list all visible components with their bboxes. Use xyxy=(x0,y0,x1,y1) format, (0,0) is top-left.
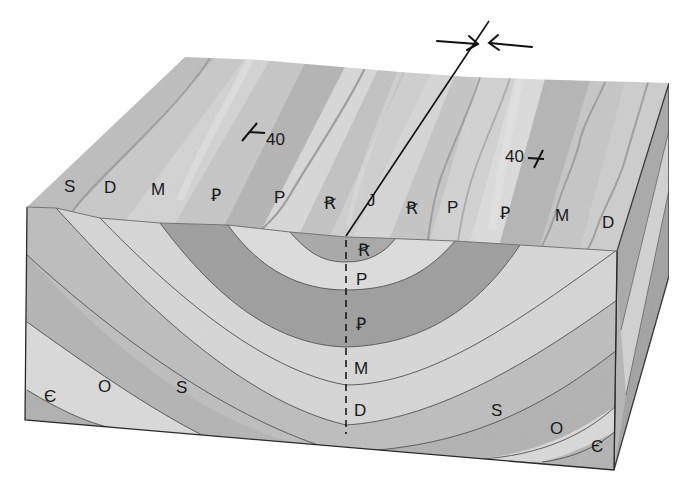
dip-value-left: 40 xyxy=(266,130,285,149)
surface-label: P xyxy=(274,188,285,207)
compression-arrows-icon xyxy=(437,35,532,50)
section-label: Ꞧ xyxy=(358,241,370,260)
section-label: M xyxy=(354,359,368,378)
surface-label: Ꝑ xyxy=(500,204,510,223)
section-label: O xyxy=(98,377,111,396)
section-label: S xyxy=(491,401,502,420)
surface-label: Ꞧ xyxy=(324,194,336,213)
section-label: O xyxy=(550,419,563,438)
surface-label: M xyxy=(555,206,569,225)
surface-label: Ꞧ xyxy=(406,199,418,218)
surface-label: Ꝑ xyxy=(211,186,221,205)
section-label: Є xyxy=(591,437,603,456)
surface-label: D xyxy=(602,213,614,232)
surface-label: M xyxy=(151,180,165,199)
section-label: D xyxy=(354,401,366,420)
section-label: Ꝑ xyxy=(356,315,366,334)
surface-label: P xyxy=(447,198,458,217)
syncline-block-diagram: 40 40 S D M Ꝑ P Ꞧ J Ꞧ P Ꝑ M D Ꞧ P Ꝑ M D … xyxy=(0,0,690,482)
section-label: S xyxy=(176,378,187,397)
dip-value-right: 40 xyxy=(505,147,524,166)
section-label: Є xyxy=(44,387,56,406)
surface-label: S xyxy=(64,177,75,196)
surface-label: J xyxy=(367,191,376,210)
surface-label: D xyxy=(104,178,116,197)
section-label: P xyxy=(356,270,367,289)
